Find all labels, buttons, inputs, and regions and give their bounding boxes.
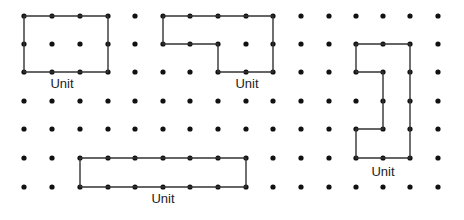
grid-dot [132, 69, 137, 74]
grid-dot [132, 13, 137, 18]
grid-dot [49, 126, 54, 131]
grid-dot [160, 69, 165, 74]
grid-dot [243, 41, 248, 46]
grid-dot [298, 41, 303, 46]
grid-dot [270, 98, 275, 103]
grid-dot [270, 126, 275, 131]
dot-grid-diagram: Unit Unit Unit Unit [0, 0, 464, 220]
grid-dot [77, 98, 82, 103]
grid-dot [49, 41, 54, 46]
l-shape-outline [163, 16, 273, 72]
grid-dot [187, 69, 192, 74]
grid-dot [270, 155, 275, 160]
unit-label-vertical-shape: Unit [371, 164, 395, 179]
grid-dot [298, 98, 303, 103]
grid-dot [77, 41, 82, 46]
grid-dot [243, 126, 248, 131]
grid-dot [21, 98, 26, 103]
grid-dot [435, 69, 440, 74]
grid-dot [132, 126, 137, 131]
grid-dot [132, 98, 137, 103]
grid-dot [435, 41, 440, 46]
grid-dot [49, 184, 54, 189]
rectangle-6x1-outline [80, 158, 246, 187]
grid-dot [353, 184, 358, 189]
rectangle-3x2-outline [24, 16, 108, 72]
grid-dot [105, 126, 110, 131]
grid-dot [243, 98, 248, 103]
vertical-notched-shape-outline [356, 44, 410, 158]
grid-dot [326, 13, 331, 18]
grid-dot [77, 126, 82, 131]
grid-dot [353, 98, 358, 103]
grid-dot [21, 184, 26, 189]
grid-dot [380, 13, 385, 18]
grid-dot [298, 126, 303, 131]
unit-label-long-rectangle: Unit [151, 191, 175, 206]
grid-dot [435, 126, 440, 131]
grid-dot [353, 13, 358, 18]
grid-dot [435, 98, 440, 103]
grid-dot [435, 13, 440, 18]
grid-dot [105, 98, 110, 103]
grid-dot [326, 126, 331, 131]
grid-dot [215, 126, 220, 131]
grid-dot [132, 41, 137, 46]
grid-dot [270, 184, 275, 189]
unit-label-rectangle: Unit [50, 76, 74, 91]
grid-dot [160, 98, 165, 103]
grid-dot [49, 98, 54, 103]
grid-dot [215, 98, 220, 103]
grid-dot [326, 41, 331, 46]
grid-dot [187, 126, 192, 131]
grid-dot [326, 184, 331, 189]
grid-dot [49, 155, 54, 160]
grid-dot [298, 69, 303, 74]
grid-dot [21, 155, 26, 160]
grid-dot [187, 98, 192, 103]
grid-dot [326, 98, 331, 103]
grid-dot [407, 184, 412, 189]
grid-dot [407, 13, 412, 18]
grid-dot [380, 184, 385, 189]
grid-dot [298, 155, 303, 160]
grid-dot [435, 155, 440, 160]
grid-dot [435, 184, 440, 189]
grid-dot [160, 126, 165, 131]
grid-dot [298, 13, 303, 18]
unit-label-l-shape: Unit [235, 76, 259, 91]
grid-dot [326, 69, 331, 74]
grid-dot [326, 155, 331, 160]
grid-dot [21, 126, 26, 131]
grid-dot [298, 184, 303, 189]
